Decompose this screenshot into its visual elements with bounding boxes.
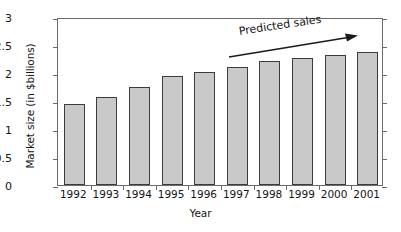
- bar: [162, 76, 183, 185]
- y-axis-tick-left: [53, 75, 58, 76]
- y-axis-tick-right: [382, 19, 387, 20]
- y-axis-tick-label: 1: [0, 125, 12, 136]
- plot-area: [57, 18, 383, 186]
- bar: [129, 87, 150, 185]
- y-axis-tick-label: 2.5: [0, 41, 12, 52]
- x-axis-title: Year: [0, 207, 401, 219]
- y-axis-tick-label: 0.5: [0, 153, 12, 164]
- bar: [194, 72, 215, 185]
- bar: [259, 61, 280, 185]
- y-axis-tick-left: [53, 47, 58, 48]
- y-axis-title: Market size (in $billions): [24, 16, 36, 196]
- y-axis-tick-right: [382, 187, 387, 188]
- y-axis-tick-left: [53, 103, 58, 104]
- y-axis-tick-left: [53, 19, 58, 20]
- y-axis-tick-right: [382, 159, 387, 160]
- bar: [64, 104, 85, 185]
- y-axis-tick-label: 3: [0, 13, 12, 24]
- bar: [357, 52, 378, 185]
- y-axis-tick-left: [53, 187, 58, 188]
- bar: [96, 97, 117, 185]
- y-axis-tick-right: [382, 75, 387, 76]
- bar: [227, 67, 248, 185]
- bar-chart: Market size (in $billions) 00.511.522.53…: [0, 0, 401, 232]
- x-axis-tick-label: 2001: [345, 189, 389, 200]
- bar: [292, 58, 313, 185]
- y-axis-tick-left: [53, 131, 58, 132]
- y-axis-tick-right: [382, 103, 387, 104]
- y-axis-tick-right: [382, 131, 387, 132]
- y-axis-tick-label: 1.5: [0, 97, 12, 108]
- y-axis-tick-label: 2: [0, 69, 12, 80]
- bar: [325, 55, 346, 185]
- y-axis-tick-right: [382, 47, 387, 48]
- y-axis-tick-left: [53, 159, 58, 160]
- y-axis-tick-label: 0: [0, 181, 12, 192]
